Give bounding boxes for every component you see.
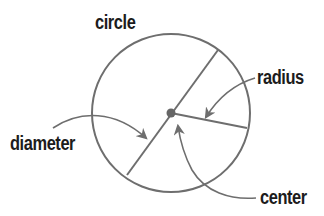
circle-diagram bbox=[0, 0, 324, 216]
diameter-label: diameter bbox=[10, 133, 75, 153]
center-dot bbox=[167, 109, 176, 118]
radius-line bbox=[171, 113, 247, 128]
center-label: center bbox=[260, 187, 307, 207]
radius-label: radius bbox=[257, 67, 304, 87]
center-arrow bbox=[178, 126, 256, 198]
circle-label: circle bbox=[95, 12, 135, 32]
